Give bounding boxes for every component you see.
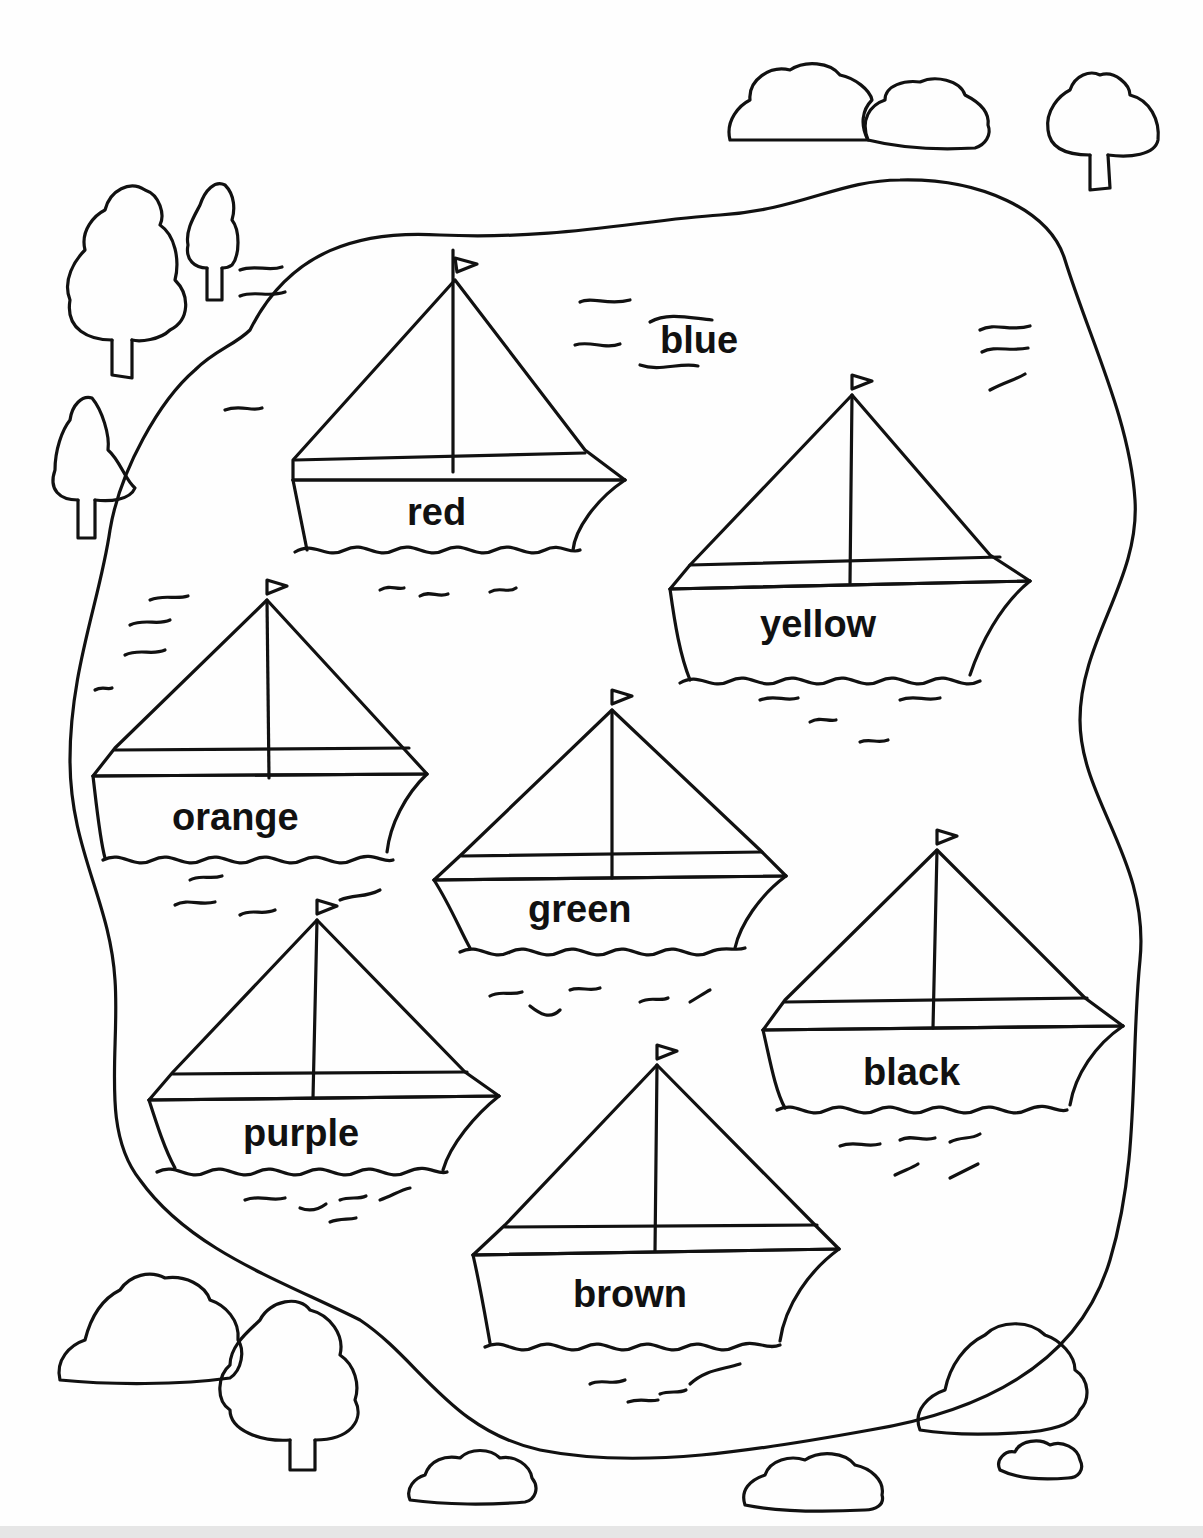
boat-yellow: yellow <box>670 375 1030 684</box>
boat-label: purple <box>243 1112 359 1154</box>
tree-left-lower <box>53 397 135 538</box>
boat-brown: brown <box>473 1045 839 1350</box>
boat-label: yellow <box>760 603 877 645</box>
boat-label: brown <box>573 1273 687 1315</box>
boat-purple: purple <box>149 900 499 1175</box>
bush-bottom-center-2 <box>744 1454 883 1511</box>
tree-left-large <box>68 186 186 378</box>
bush-bottom-center-1 <box>409 1451 536 1505</box>
tree-left-small <box>187 184 238 300</box>
tree-top-right <box>1048 73 1159 190</box>
boat-label: red <box>407 491 466 533</box>
boat-black: black <box>763 830 1123 1113</box>
lake-label-blue: blue <box>640 316 738 367</box>
bush-top-2 <box>865 79 989 149</box>
bush-top-1 <box>729 64 872 140</box>
boat-green: green <box>434 690 786 955</box>
coloring-drawing: blue red yellow <box>0 0 1203 1526</box>
bush-bottom-left <box>59 1274 242 1383</box>
boat-label: black <box>863 1051 961 1093</box>
bush-bottom-right <box>918 1324 1087 1434</box>
lake-label: blue <box>660 319 738 361</box>
bush-bottom-right-small <box>999 1441 1082 1479</box>
boat-label: orange <box>172 796 299 838</box>
tree-bottom-left <box>220 1301 358 1470</box>
page-bottom-edge <box>0 1526 1203 1538</box>
boat-red: red <box>293 250 625 553</box>
boat-label: green <box>528 888 631 930</box>
coloring-page: blue red yellow <box>0 0 1203 1526</box>
